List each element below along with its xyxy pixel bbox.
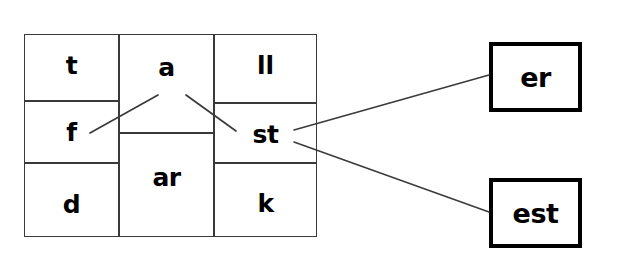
diagram-canvas: t f d a ar ll st k er est xyxy=(0,0,619,261)
suffix-box-est-label: est xyxy=(513,200,559,227)
grid-cell-t[interactable]: t xyxy=(24,34,119,101)
grid-cell-ar[interactable]: ar xyxy=(119,133,214,237)
grid-cell-k-label: k xyxy=(257,191,273,216)
grid-cell-f-label: f xyxy=(66,120,76,145)
suffix-box-er-label: er xyxy=(520,64,551,91)
grid-cell-st-label: st xyxy=(253,122,279,147)
grid-cell-f[interactable]: f xyxy=(24,101,119,163)
grid-cell-a[interactable]: a xyxy=(119,34,214,133)
grid-cell-k[interactable]: k xyxy=(214,163,317,237)
letter-grid: t f d a ar ll st k xyxy=(24,34,317,237)
connector-st-to-est xyxy=(294,142,489,212)
grid-cell-a-label: a xyxy=(158,55,174,80)
grid-cell-d-label: d xyxy=(63,192,80,217)
suffix-box-er[interactable]: er xyxy=(489,42,582,112)
suffix-box-est[interactable]: est xyxy=(489,178,582,248)
connector-st-to-er xyxy=(294,75,489,130)
grid-cell-ll-label: ll xyxy=(257,53,274,78)
grid-cell-ll[interactable]: ll xyxy=(214,34,317,103)
grid-cell-t-label: t xyxy=(66,53,77,78)
grid-cell-ar-label: ar xyxy=(152,165,180,190)
grid-cell-d[interactable]: d xyxy=(24,163,119,237)
grid-cell-st[interactable]: st xyxy=(214,103,317,163)
